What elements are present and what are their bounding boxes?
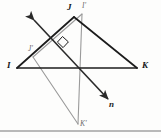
segment-j-prime-k-prime — [33, 57, 78, 124]
line-label-n: n — [109, 100, 114, 109]
image-triangle — [33, 14, 82, 124]
vertex-label-i: I — [7, 61, 11, 70]
reflection-line-n — [34, 20, 108, 99]
segment-jk — [74, 17, 137, 68]
vertex-label-k: K — [142, 61, 148, 70]
vertex-label-j-prime: J' — [28, 45, 33, 53]
geometry-figure: I J K I' J' K' n — [0, 0, 161, 138]
vertex-label-k-prime: K' — [80, 120, 87, 128]
segment-ij — [17, 17, 74, 68]
vertex-label-i-prime: I' — [82, 2, 86, 10]
vertex-label-j: J — [67, 3, 72, 12]
figure-canvas — [0, 0, 161, 138]
segment-i-prime-j-prime — [33, 14, 82, 57]
